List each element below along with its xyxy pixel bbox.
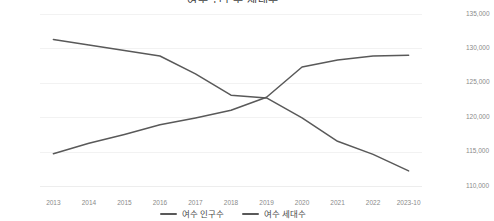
y-axis-right-tick: 125,000 <box>466 79 494 86</box>
x-axis-tick: 2017 <box>188 200 202 207</box>
y-axis-right-tick: 110,000 <box>466 183 494 190</box>
gridline <box>40 186 422 187</box>
plot-area: 270,000110,000275,000115,000280,000120,0… <box>40 14 422 186</box>
x-axis-tick: 2018 <box>224 200 238 207</box>
x-axis-tick: 2015 <box>117 200 131 207</box>
x-axis-tick: 2023-10 <box>397 200 421 207</box>
chart-title: 여수 인구수 세대수 <box>0 0 466 3</box>
series-line-population <box>53 39 408 170</box>
legend-label-households: 여수 세대수 <box>264 210 306 219</box>
series-line-households <box>53 55 408 153</box>
legend-line-icon <box>242 213 259 215</box>
y-axis-right-tick: 115,000 <box>466 148 494 155</box>
chart-legend: 여수 인구수 여수 세대수 <box>0 210 466 219</box>
legend-line-icon <box>160 213 177 215</box>
legend-item-population[interactable]: 여수 인구수 <box>160 210 224 219</box>
x-axis-tick: 2020 <box>295 200 309 207</box>
series-layer <box>40 14 422 186</box>
x-axis-tick: 2019 <box>259 200 273 207</box>
y-axis-right-tick: 120,000 <box>466 114 494 121</box>
y-axis-right-tick: 135,000 <box>466 11 494 18</box>
x-axis-tick: 2022 <box>366 200 380 207</box>
legend-label-population: 여수 인구수 <box>182 210 224 219</box>
x-axis-tick: 2021 <box>330 200 344 207</box>
legend-item-households[interactable]: 여수 세대수 <box>242 210 306 219</box>
x-axis-tick: 2014 <box>82 200 96 207</box>
x-axis-tick: 2016 <box>153 200 167 207</box>
x-axis-tick: 2013 <box>46 200 60 207</box>
y-axis-right-tick: 130,000 <box>466 45 494 52</box>
